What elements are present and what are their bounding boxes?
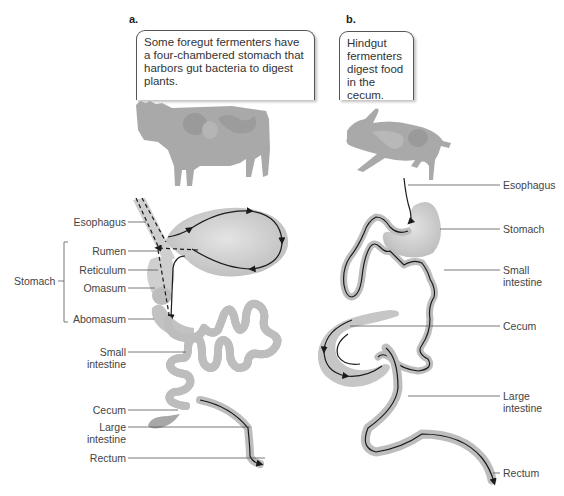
label-rumen: Rumen [60, 245, 126, 257]
label-large-intestine-b-line2: intestine [503, 402, 542, 414]
label-small-intestine-b-line2: intestine [503, 276, 542, 288]
label-omasum: Omasum [60, 282, 126, 294]
label-small-intestine-b-line1: Small [503, 264, 529, 276]
label-reticulum: Reticulum [60, 264, 126, 276]
label-rectum-a: Rectum [60, 452, 126, 464]
cow-digestive-tract [133, 198, 288, 464]
cow-silhouette-icon [136, 101, 270, 186]
label-cecum-a: Cecum [60, 404, 126, 416]
label-small-intestine-a-line1: Small [60, 346, 126, 358]
label-esophagus-b: Esophagus [503, 179, 556, 191]
label-abomasum: Abomasum [60, 313, 126, 325]
label-large-intestine-b-line1: Large [503, 390, 530, 402]
label-large-intestine-a-line2: intestine [60, 433, 126, 445]
rabbit-silhouette-icon [347, 109, 452, 180]
label-rectum-b: Rectum [503, 467, 539, 479]
label-cecum-b: Cecum [503, 320, 536, 332]
label-large-intestine-a-line1: Large [60, 421, 126, 433]
label-stomach-a: Stomach [14, 275, 55, 287]
label-esophagus-a: Esophagus [60, 216, 126, 228]
rabbit-digestive-tract [318, 178, 494, 482]
label-small-intestine-a-line2: intestine [60, 358, 126, 370]
label-stomach-b: Stomach [503, 223, 544, 235]
